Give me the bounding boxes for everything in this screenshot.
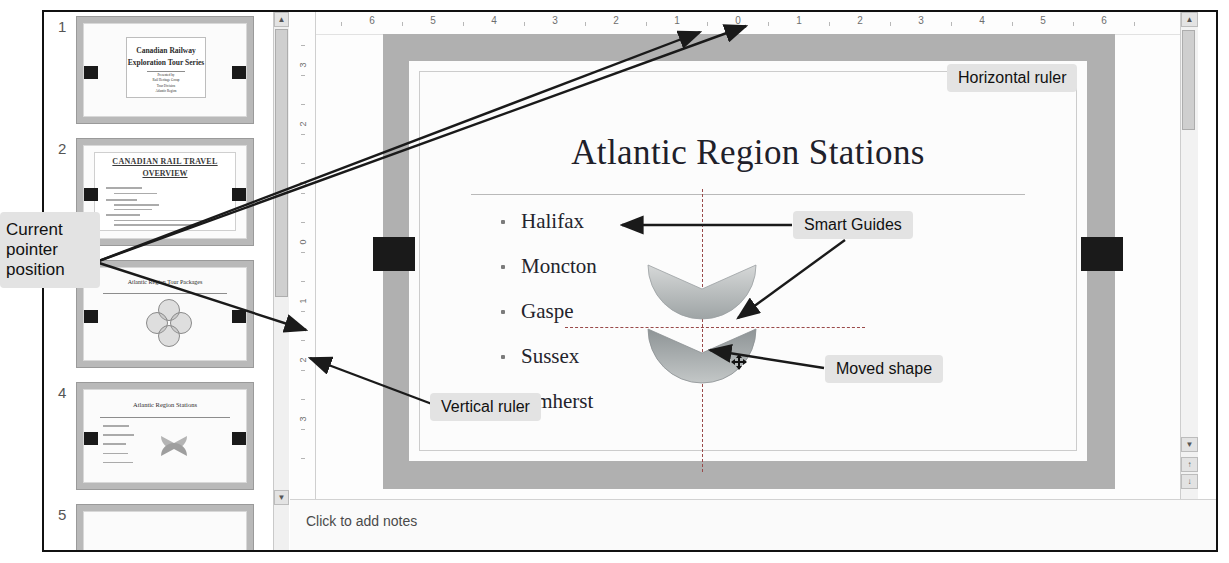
thumb-divider	[103, 293, 226, 294]
next-slide-button[interactable]: ↓	[1181, 474, 1198, 489]
title-divider	[471, 194, 1025, 195]
decoration-bar-left	[83, 310, 98, 323]
body-line	[114, 204, 159, 205]
double-chevron-down-icon: ↓	[1182, 475, 1197, 488]
chevron-up-icon: ▲	[1182, 13, 1197, 26]
body-line	[114, 220, 207, 221]
bullet-dot-icon	[501, 220, 505, 224]
bullet-text: Gaspe	[521, 299, 573, 324]
bullet-text: Sussex	[521, 344, 579, 369]
thumbnail-slide-1[interactable]: 1 Canadian Railway Exploration Tour Seri…	[44, 14, 273, 132]
thumbnail-frame: Canadian Railway Exploration Tour Series…	[76, 16, 254, 124]
callout-smart-guides: Smart Guides	[793, 211, 913, 239]
thumb-title-line1: CANADIAN RAIL TRAVEL	[95, 157, 236, 166]
decoration-bar-right	[232, 310, 247, 323]
thumb-title-line1: Canadian Railway	[127, 46, 205, 55]
body-line	[114, 193, 156, 194]
decoration-bar-right	[1081, 237, 1123, 271]
hruler-tick-label: 1	[792, 15, 806, 26]
bullet-dot-icon	[501, 355, 505, 359]
thumbnail-canvas: Atlantic Region Tour Packages	[83, 267, 247, 361]
hruler-tick-label: 6	[365, 15, 379, 26]
callout-current-pointer-position: Current pointer position	[0, 212, 100, 288]
decoration-bar-right	[232, 66, 247, 79]
previous-slide-button[interactable]: ↑	[1181, 457, 1198, 472]
moved-shape-thumbnail	[159, 432, 189, 462]
scroll-up-button[interactable]: ▲	[274, 12, 289, 27]
thumbnail-slide-4[interactable]: 4 Atlantic Region Stations	[44, 380, 273, 498]
thumb-bullet-line	[103, 462, 132, 464]
scroll-up-button[interactable]: ▲	[1181, 12, 1198, 27]
bullet-dot-icon	[501, 310, 505, 314]
thumbnail-frame: Atlantic Region Fares	[76, 504, 254, 550]
move-cursor-icon	[731, 354, 747, 370]
hruler-tick-label: 4	[975, 15, 989, 26]
body-line	[114, 209, 152, 210]
vertical-ruler[interactable]: 3 2 1 0 1 2 3	[290, 12, 316, 499]
scroll-down-button[interactable]: ▼	[1181, 437, 1198, 452]
hruler-tick-label: 2	[609, 15, 623, 26]
thumbnail-scrollbar[interactable]: ▲ ▼	[273, 12, 289, 550]
slide-title[interactable]: Atlantic Region Stations	[409, 133, 1087, 173]
thumbnail-canvas: Canadian Railway Exploration Tour Series…	[83, 23, 247, 117]
decoration-bar-right	[232, 188, 247, 201]
thumbnail-number: 2	[58, 140, 66, 157]
thumb-bullet-line	[103, 443, 126, 445]
thumb-title-line1: Atlantic Region Tour Packages	[84, 279, 246, 285]
chevron-down-icon: ▼	[275, 491, 288, 504]
scrollbar-thumb[interactable]	[1182, 30, 1195, 130]
notes-pane[interactable]: Click to add notes	[290, 499, 1216, 550]
thumb-bullet-line	[103, 425, 129, 427]
venn-circle-bottom	[158, 325, 180, 347]
venn-diagram	[146, 299, 190, 347]
thumb-subtitle-1: Presented by	[127, 73, 205, 77]
body-line	[106, 199, 137, 201]
scroll-down-button[interactable]: ▼	[274, 490, 289, 505]
thumb-subtitle-2: Rail Heritage Group	[127, 78, 205, 82]
callout-horizontal-ruler: Horizontal ruler	[947, 64, 1077, 92]
horizontal-ruler[interactable]: 6 5 4 3 2 1 0 1 2 3 4 5 6	[316, 12, 1198, 35]
decoration-bar-right	[232, 432, 247, 445]
decoration-bar-left	[83, 432, 98, 445]
body-line	[106, 214, 140, 216]
bullet-text: Moncton	[521, 254, 597, 279]
thumb-title-line1: Atlantic Region Stations	[84, 401, 246, 408]
thumb-bullet-line	[103, 434, 134, 436]
bullet-dot-icon	[501, 265, 505, 269]
bullet-text: Halifax	[521, 209, 584, 234]
double-chevron-up-icon: ↑	[1182, 458, 1197, 471]
moved-shape[interactable]	[646, 257, 758, 397]
thumb-title-line2: Exploration Tour Series	[127, 58, 205, 67]
callout-moved-shape: Moved shape	[825, 355, 943, 383]
scrollbar-thumb[interactable]	[275, 29, 288, 297]
chevron-up-icon: ▲	[275, 13, 288, 26]
hruler-tick-label: 4	[487, 15, 501, 26]
thumb-divider	[147, 71, 184, 72]
content-box: CANADIAN RAIL TRAVEL OVERVIEW	[94, 152, 237, 231]
hruler-tick-label: 5	[426, 15, 440, 26]
thumbnail-frame: Atlantic Region Tour Packages	[76, 260, 254, 368]
hruler-tick-label: 3	[548, 15, 562, 26]
thumbnail-frame: CANADIAN RAIL TRAVEL OVERVIEW	[76, 138, 254, 246]
decoration-bar-left	[83, 188, 98, 201]
thumbnail-frame: Atlantic Region Stations	[76, 382, 254, 490]
thumb-title-line2: OVERVIEW	[95, 169, 236, 178]
thumbnail-number: 1	[58, 18, 66, 35]
title-box: Canadian Railway Exploration Tour Series…	[126, 37, 206, 98]
hruler-tick-label: 0	[731, 15, 745, 26]
callout-vertical-ruler: Vertical ruler	[430, 393, 541, 421]
thumbnail-canvas: Atlantic Region Stations	[83, 389, 247, 483]
list-item[interactable]: Halifax	[501, 209, 751, 234]
hruler-tick-label: 5	[1036, 15, 1050, 26]
chevron-down-icon: ▼	[1182, 438, 1197, 451]
editor-scrollbar[interactable]: ▲ ▼ ↑ ↓	[1180, 12, 1198, 499]
thumbnail-slide-5[interactable]: 5 Atlantic Region Fares	[44, 502, 273, 550]
thumb-subtitle-4: Atlantic Region	[127, 89, 205, 93]
decoration-bar-left	[83, 66, 98, 79]
hruler-tick-label: 3	[914, 15, 928, 26]
thumb-divider	[100, 417, 230, 418]
hruler-tick-label: 1	[670, 15, 684, 26]
hruler-tick-label: 2	[853, 15, 867, 26]
thumb-bullet-line	[103, 453, 127, 455]
body-line	[114, 224, 196, 225]
